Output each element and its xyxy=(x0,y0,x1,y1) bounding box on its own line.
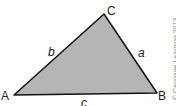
side-label-b: b xyxy=(48,45,55,59)
vertex-label-b: B xyxy=(158,89,166,103)
side-label-a: a xyxy=(138,46,145,60)
triangle-diagram: A B C a b c xyxy=(0,0,176,106)
vertex-label-a: A xyxy=(1,89,9,103)
copyright-credit: © Cengage Learning 2013 xyxy=(172,18,176,100)
vertex-label-c: C xyxy=(107,4,116,18)
side-label-c: c xyxy=(81,96,87,106)
triangle-abc xyxy=(14,14,157,95)
